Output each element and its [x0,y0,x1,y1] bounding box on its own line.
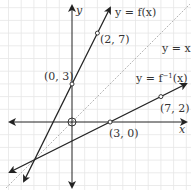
point-7-2 [159,95,163,99]
f-label: y = f(x) [114,6,156,19]
point-label-2-7: (2, 7) [100,33,130,46]
identity-label: y = x [161,42,191,55]
point-label-7-2: (7, 2) [160,102,190,115]
point-3-0 [108,120,112,124]
graph: y x y = f(x) (2, 7) y = x (0, 3) y = f−1… [0,0,191,190]
y-axis-label: y [75,4,83,17]
point-label-3-0: (3, 0) [109,127,139,140]
point-2-7 [95,31,99,35]
finv-label-arg: (x) [173,72,188,85]
point-label-0-3: (0, 3) [44,70,74,83]
finv-label: y = f−1(x) [135,72,188,85]
finv-label-sup: −1 [163,72,173,80]
x-axis-label: x [179,123,186,136]
finv-label-base: y = f [135,72,163,85]
